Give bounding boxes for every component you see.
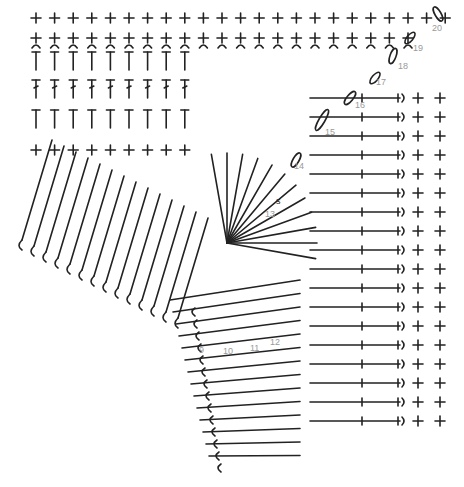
row-label-19: 19 xyxy=(413,44,423,53)
row-label-13: 13 xyxy=(265,210,275,219)
row-label-18: 18 xyxy=(398,62,408,71)
row-label-11: 11 xyxy=(250,344,259,353)
row-label-12: 12 xyxy=(270,338,280,347)
row-label-15: 15 xyxy=(325,128,335,137)
row-label-16: 16 xyxy=(355,101,365,110)
marker-label-s: s xyxy=(276,197,281,206)
row-label-14: 14 xyxy=(294,162,304,171)
row-label-9: 9 xyxy=(199,346,204,355)
crochet-diagram: 9 10 11 12 13 14 15 16 17 18 19 20 s xyxy=(0,0,464,487)
row-label-10: 10 xyxy=(223,347,233,356)
row-label-17: 17 xyxy=(376,78,386,87)
row-label-20: 20 xyxy=(432,24,442,33)
stitch-chart xyxy=(0,0,464,487)
